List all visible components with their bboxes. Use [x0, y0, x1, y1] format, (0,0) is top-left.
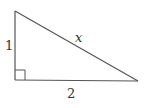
- triangle: [15, 11, 138, 81]
- vertical-leg-label: 1: [5, 38, 13, 53]
- hypotenuse: [15, 11, 138, 81]
- right-triangle-diagram: 1 x 2: [0, 0, 147, 108]
- horizontal-leg-label: 2: [67, 86, 75, 101]
- right-angle-marker: [15, 70, 25, 80]
- horizontal-leg: [15, 80, 138, 81]
- hypotenuse-label: x: [75, 30, 83, 45]
